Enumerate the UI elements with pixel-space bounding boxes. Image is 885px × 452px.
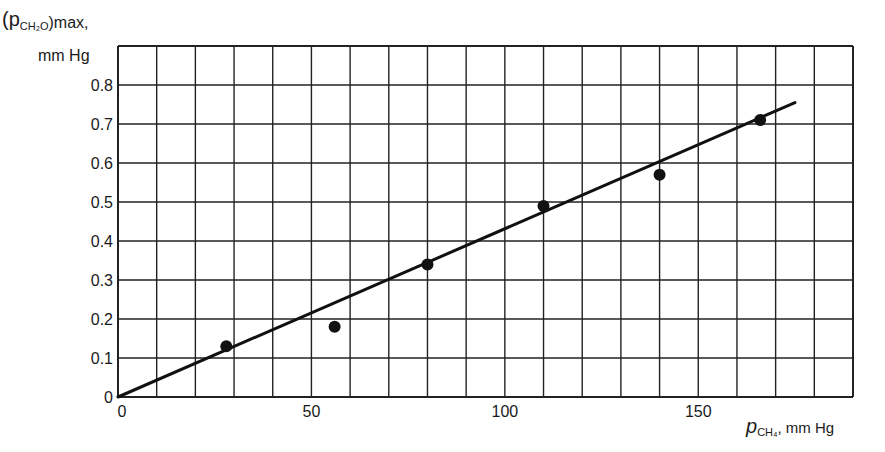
x-tick-label: 150 [685,403,712,420]
fit-line [118,103,795,397]
y-tick-label: 0.8 [91,77,113,94]
y-tick-label: 0.4 [91,233,113,250]
data-point [538,200,550,212]
y-tick-label: 0.7 [91,116,113,133]
y-tick-label: 0.6 [91,155,113,172]
data-point [329,321,341,333]
x-tick-label: 0 [118,403,127,420]
y-tick-label: 0 [104,389,113,406]
data-point [421,258,433,270]
y-tick-label: 0.1 [91,350,113,367]
y-tick-label: 0.3 [91,272,113,289]
x-tick-label: 100 [491,403,518,420]
x-axis-label: pCH₄, mm Hg [745,415,834,438]
y-axis-unit: mm Hg [38,47,90,64]
x-tick-label: 50 [303,403,321,420]
y-tick-labels: 00.10.20.30.40.50.60.70.8 [91,77,113,406]
fit-line-path [118,103,795,397]
chart: 050100150 00.10.20.30.40.50.60.70.8 (pCH… [0,0,885,452]
data-point [754,114,766,126]
y-tick-label: 0.5 [91,194,113,211]
y-tick-label: 0.2 [91,311,113,328]
x-tick-labels: 050100150 [118,403,712,420]
data-point [654,169,666,181]
y-axis-label: (pCH₂O)max, [2,8,89,32]
data-point [220,340,232,352]
